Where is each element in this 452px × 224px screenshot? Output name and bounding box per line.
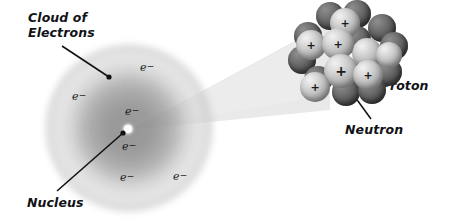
electron-label: e− [120,171,134,184]
label-cloud-of-electrons: Cloud of Electrons [28,10,95,40]
proton-sphere [376,42,402,68]
electron-label: e− [173,170,187,183]
proton-plus-icon: + [306,40,315,51]
proton-sphere: + [353,60,383,90]
proton-plus-icon: + [363,70,372,81]
electron-label: e− [122,140,136,153]
proton-plus-icon: + [310,82,319,93]
proton-plus-icon: + [340,18,349,29]
label-nucleus: Nucleus [27,195,84,210]
label-neutron: Neutron [345,122,403,137]
electron-label: e− [72,90,86,103]
electron-label: e− [140,61,154,74]
proton-sphere: + [300,72,330,102]
electron-label: e− [125,105,139,118]
nucleus-point [124,125,132,133]
atom-diagram-figure: e− e− e− e− e− e− ++++++ Cloud of Electr… [0,0,452,224]
proton-plus-icon: + [333,39,342,50]
nucleus-cluster: ++++++ [288,0,413,115]
proton-plus-icon: + [335,64,347,78]
